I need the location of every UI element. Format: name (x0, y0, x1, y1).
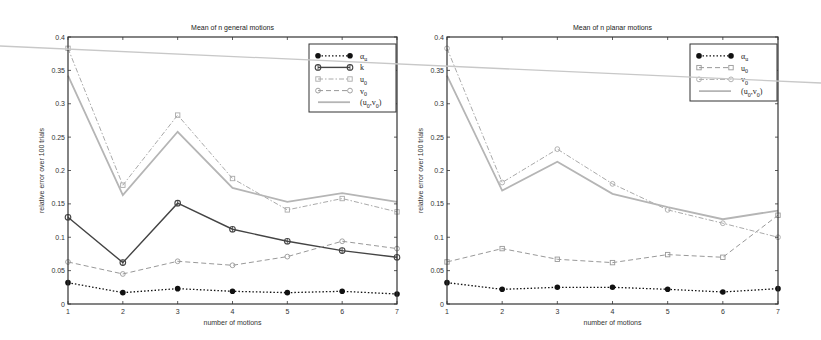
legend-label-sub: 0 (745, 68, 748, 74)
x-tick-label: 7 (395, 308, 399, 315)
x-tick-label: 7 (776, 308, 780, 315)
y-tick-label: 0 (440, 301, 444, 308)
legend-label: (u0,v0) (741, 87, 763, 98)
marker-filled-circle-icon (175, 286, 181, 292)
marker-filled-circle-icon (728, 53, 734, 59)
y-axis-label: relative error over 100 trials (417, 127, 424, 213)
y-tick-label: 0.4 (55, 34, 65, 41)
y-tick-label: 0.35 (430, 67, 444, 74)
series-u0 (445, 213, 780, 265)
marker-filled-circle-icon (315, 53, 321, 59)
x-axis-label: number of motions (584, 319, 642, 326)
marker-circle-icon (500, 180, 505, 185)
marker-filled-circle-icon (285, 290, 291, 296)
x-tick-label: 5 (285, 308, 289, 315)
series-k (65, 200, 400, 265)
y-tick-label: 0.05 (430, 267, 444, 274)
marker-filled-circle-icon (230, 289, 236, 295)
y-tick-label: 0.4 (434, 34, 444, 41)
x-tick-label: 6 (340, 308, 344, 315)
plot-title: Mean of n general motions (191, 24, 274, 32)
y-tick-label: 0.2 (434, 167, 444, 174)
plot-title: Mean of n planar motions (573, 24, 652, 32)
chart-planar-motions: Mean of n planar motions00.050.10.150.20… (417, 24, 781, 326)
y-tick-label: 0.15 (430, 200, 444, 207)
y-tick-label: 0.15 (51, 200, 65, 207)
series-u (65, 280, 400, 297)
y-tick-label: 0.3 (434, 100, 444, 107)
y-tick-label: 0.35 (51, 67, 65, 74)
y-tick-label: 0.25 (430, 134, 444, 141)
chart-general-motions: Mean of n general motions00.050.10.150.2… (38, 24, 400, 326)
y-tick-label: 0.1 (55, 234, 65, 241)
legend-label-main: k (360, 63, 364, 72)
x-tick-label: 1 (66, 308, 70, 315)
legend-label-sub: 0 (745, 80, 748, 86)
marker-filled-circle-icon (347, 53, 353, 59)
marker-filled-circle-icon (499, 287, 505, 293)
y-axis-label: relative error over 100 trials (38, 127, 45, 213)
marker-filled-circle-icon (339, 289, 345, 295)
legend-label-close: ) (379, 98, 382, 107)
marker-square-icon (285, 208, 289, 212)
y-tick-label: 0.05 (51, 267, 65, 274)
y-tick-label: 0.25 (51, 134, 65, 141)
figure-canvas: Mean of n general motions00.050.10.150.2… (0, 0, 821, 340)
x-tick-label: 3 (555, 308, 559, 315)
legend: αuu0v0(u0,v0) (690, 44, 777, 101)
marker-filled-circle-icon (120, 290, 126, 296)
marker-filled-circle-icon (720, 289, 726, 295)
series-line (68, 203, 397, 262)
legend-label-main: (u (360, 98, 367, 107)
series-v0 (66, 239, 400, 277)
marker-filled-circle-icon (555, 285, 561, 291)
x-tick-label: 2 (500, 308, 504, 315)
x-axis-label: number of motions (204, 319, 262, 326)
x-tick-label: 5 (666, 308, 670, 315)
legend-label: k (360, 63, 364, 72)
x-tick-label: 2 (121, 308, 125, 315)
legend-label-close: ) (760, 87, 763, 96)
marker-filled-circle-icon (696, 53, 702, 59)
y-tick-label: 0.2 (55, 167, 65, 174)
legend-label-main: (u (741, 87, 748, 96)
marker-filled-circle-icon (665, 287, 671, 293)
legend: αuku0v0(u0,v0) (309, 44, 396, 112)
x-tick-label: 4 (611, 308, 615, 315)
series-line (447, 215, 778, 262)
legend-box (690, 44, 777, 101)
legend-label-sub: u (745, 56, 748, 62)
legend-label: (u0,v0) (360, 98, 382, 109)
y-tick-label: 0.3 (55, 100, 65, 107)
marker-filled-circle-icon (610, 285, 616, 291)
legend-label-sub: 0 (364, 80, 367, 86)
y-tick-label: 0.1 (434, 234, 444, 241)
x-tick-label: 3 (176, 308, 180, 315)
x-tick-label: 1 (445, 308, 449, 315)
legend-label-sub: 0 (364, 91, 367, 97)
x-tick-label: 6 (721, 308, 725, 315)
y-tick-label: 0 (61, 301, 65, 308)
x-tick-label: 4 (231, 308, 235, 315)
series-u (444, 280, 781, 295)
legend-label-sub: u (364, 56, 367, 62)
marker-circle-icon (555, 147, 560, 152)
